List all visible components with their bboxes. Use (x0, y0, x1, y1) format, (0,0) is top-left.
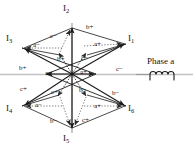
vector-label-I2: I2 (63, 4, 69, 14)
figure-root: I2 I1 I3 I4 I6 I5 b+ c− a− a+ b+ c− b+ c… (0, 0, 193, 158)
phase-label-c-plus-inner-bottom: c+ (51, 89, 58, 96)
phase-label-b-minus-inner-bottom: b− (79, 87, 86, 94)
vector-label-I1: I1 (128, 34, 134, 44)
vector-label-I5: I5 (63, 134, 69, 144)
vector-label-I6: I6 (128, 104, 134, 114)
vector-label-I3: I3 (6, 34, 12, 44)
dotted-b-minus-bottom (60, 97, 70, 125)
phase-label-c-plus-bottom: c+ (82, 117, 89, 124)
vector-label-I4: I4 (6, 104, 12, 114)
phase-label-c-minus-right: c− (116, 66, 123, 73)
legend-inductor-symbol (136, 72, 174, 81)
phase-label-b-minus-right: b− (112, 90, 119, 97)
phase-label-a-plus-center-right: a+ (80, 69, 87, 76)
chord-I3-inner (22, 48, 60, 55)
vector-star-diagram (0, 0, 193, 158)
phase-label-c-plus-left: c+ (20, 86, 27, 93)
phase-label-a-plus-lower-right: a+ (94, 103, 101, 110)
phase-label-c-minus-upper-left: c− (50, 33, 57, 40)
chord-I5-left (24, 106, 72, 128)
center-node (70, 72, 74, 76)
phase-label-b-minus-bottom: b− (50, 118, 57, 125)
phase-label-a-plus-upper-right: a+ (94, 41, 101, 48)
dotted-a-plus-upper-right (84, 44, 122, 46)
chord-I2-left (24, 28, 72, 48)
phase-label-b-plus-inner-top: b+ (57, 56, 64, 63)
phase-label-a-minus-lower-left: a− (35, 102, 42, 109)
dotted-c-minus-top (60, 30, 70, 52)
phase-label-a-minus-center-left: a− (45, 70, 52, 77)
chord-I6-inner (87, 95, 126, 106)
phase-label-a-minus-upper-left: a− (33, 42, 40, 49)
phase-label-b-plus-left: b+ (19, 65, 26, 72)
vector-I4 (25, 74, 72, 105)
phase-label-b-plus-top: b+ (86, 24, 93, 31)
phase-label-c-minus-inner-top: c− (81, 55, 88, 62)
legend-title: Phase a (147, 57, 174, 66)
